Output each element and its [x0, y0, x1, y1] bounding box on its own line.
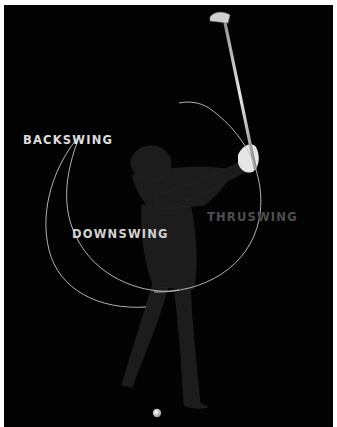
- illustration-frame: BACKSWING DOWNSWING THRUSWING: [4, 5, 333, 427]
- right-leg: [174, 285, 208, 408]
- golf-ball: [153, 409, 161, 417]
- left-leg: [122, 280, 168, 387]
- club-shaft: [223, 20, 257, 170]
- torso: [142, 203, 196, 289]
- golfer-figure: [122, 146, 250, 408]
- label-thruswing: THRUSWING: [207, 212, 298, 224]
- head: [131, 146, 171, 180]
- label-downswing: DOWNSWING: [72, 229, 169, 241]
- label-backswing: BACKSWING: [23, 135, 113, 147]
- club-head: [210, 12, 230, 23]
